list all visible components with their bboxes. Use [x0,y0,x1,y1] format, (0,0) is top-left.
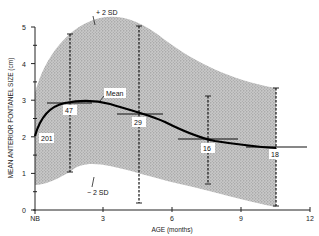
minus-2sd-label: − 2 SD [87,189,109,196]
fontanel-size-chart: 5 4 3 2 1 0 NB 3 6 9 12 AGE (months) MEA… [0,0,319,236]
x-tick-9: 9 [239,215,243,222]
y-tick-1: 1 [22,170,26,177]
n-label-16: 16 [203,145,211,152]
x-axis-label: AGE (months) [151,226,192,234]
y-tick-4: 4 [22,61,26,68]
y-axis-label: MEAN ANTERIOR FONTANEL SIZE (cm) [7,58,15,179]
minus-2sd-annotation: − 2 SD [87,177,109,196]
x-tick-12: 12 [306,215,314,222]
y-tick-5: 5 [22,24,26,31]
x-axis [33,207,310,214]
x-tick-3: 3 [101,215,105,222]
y-tick-3: 3 [22,97,26,104]
mean-label: Mean [106,90,124,97]
n-label-29: 29 [134,119,142,126]
y-tick-0: 0 [22,207,26,214]
x-tick-labels: NB 3 6 9 12 [30,215,314,222]
y-tick-labels: 5 4 3 2 1 0 [22,24,26,214]
n-label-47: 47 [65,107,73,114]
n-label-18: 18 [271,151,279,158]
x-tick-nb: NB [30,215,40,222]
n-label-201: 201 [41,135,53,142]
plus-2sd-label: + 2 SD [96,9,118,16]
y-tick-2: 2 [22,134,26,141]
x-tick-6: 6 [170,215,174,222]
